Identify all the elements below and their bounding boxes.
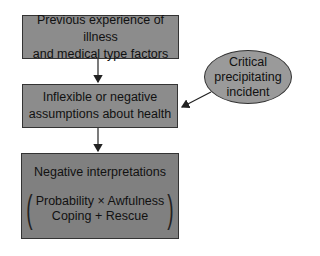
ellipse-critical-incident: Critical precipitating incident (204, 50, 292, 104)
box2-line1: Inflexible or negative (43, 89, 158, 106)
formula-fraction: Probability × Awfulness Coping + Rescue (36, 194, 165, 224)
ellipse-line1: Critical (229, 55, 267, 70)
arrow-ellipse-to-box2 (182, 92, 211, 107)
box1-line1: Previous experience of illness (23, 12, 178, 46)
box3-title: Negative interpretations (34, 164, 166, 181)
box2-line2: assumptions about health (29, 106, 171, 123)
formula-numerator: Probability × Awfulness (36, 194, 165, 209)
box-previous-experience: Previous experience of illness and medic… (22, 15, 179, 59)
left-paren: ( (26, 189, 32, 229)
box-negative-interpretations: Negative interpretations ( Probability ×… (21, 153, 179, 239)
box1-line2: and medical type factors (33, 46, 169, 63)
box-inflexible-assumptions: Inflexible or negative assumptions about… (22, 84, 178, 128)
formula-denominator: Coping + Rescue (52, 209, 148, 224)
right-paren: ) (167, 189, 173, 229)
interpretation-formula: ( Probability × Awfulness Coping + Rescu… (23, 189, 177, 229)
ellipse-line3: incident (226, 85, 269, 100)
ellipse-line2: precipitating (214, 70, 281, 85)
